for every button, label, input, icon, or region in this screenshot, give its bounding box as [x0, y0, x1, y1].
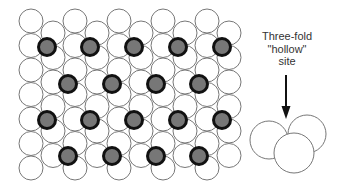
adsorbate-atom: [82, 39, 99, 56]
adsorbate-atom: [39, 112, 56, 129]
substrate-atom: [63, 9, 87, 33]
substrate-atom: [107, 9, 131, 33]
adsorbate-atom: [39, 39, 56, 56]
substrate-atom: [19, 58, 43, 82]
adsorbate-atom: [126, 112, 143, 129]
adsorbate-atom: [126, 39, 143, 56]
adsorbate-atom: [191, 148, 208, 165]
label-line-3: site: [247, 55, 327, 68]
inset-atom-front: [274, 133, 314, 173]
adsorbate-atom: [82, 112, 99, 129]
substrate-atom: [217, 144, 241, 168]
three-fold-hollow-inset: [250, 115, 326, 173]
substrate-atom: [195, 9, 219, 33]
adsorbate-atom: [214, 112, 231, 129]
hollow-site-label: Three-fold "hollow" site: [247, 30, 327, 68]
adsorbate-atom: [170, 112, 187, 129]
substrate-atom: [19, 83, 43, 107]
label-line-1: Three-fold: [247, 30, 327, 43]
adsorbate-atom: [104, 76, 121, 93]
arrow-head: [282, 106, 291, 119]
adsorbate-atom: [148, 148, 165, 165]
substrate-atom: [19, 132, 43, 156]
adsorbate-atom: [60, 148, 77, 165]
down-arrow-icon: [282, 75, 291, 119]
substrate-atom: [19, 9, 43, 33]
adsorbate-atom: [191, 76, 208, 93]
adsorbate-atom: [214, 39, 231, 56]
substrate-atom: [151, 9, 175, 33]
adsorbate-atom: [170, 39, 187, 56]
substrate-atom: [217, 70, 241, 94]
adsorbate-atom: [104, 148, 121, 165]
substrate-atom: [19, 156, 43, 180]
adsorbate-atom: [148, 76, 165, 93]
adsorbate-atom: [60, 76, 77, 93]
label-line-2: "hollow": [247, 43, 327, 56]
